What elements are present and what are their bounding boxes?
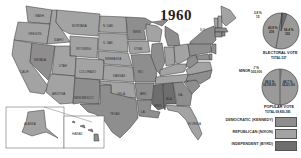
state-label-okla: OKLA. <box>117 92 126 96</box>
state-label-n-dak: N. DAK. <box>103 24 114 28</box>
electoral-rep-votes: 219 <box>269 30 274 34</box>
electoral-vote-title: ELECTORAL VOTE <box>263 51 297 55</box>
state-connecticut <box>215 32 222 37</box>
state-label-minn: MINN. <box>133 30 142 34</box>
state-label-la: LA. <box>141 110 146 114</box>
state-label-nebraska: NEBRASKA <box>105 57 121 61</box>
state-kentucky <box>160 64 188 76</box>
popular-minor-caption: MINOR <box>239 69 250 73</box>
state-label-oregon: OREGON <box>28 32 41 36</box>
state-indiana <box>164 47 175 66</box>
legend-democratic: DEMOCRATIC (KENNEDY) <box>218 117 301 126</box>
legend-label: REPUBLICAN (NIXON) <box>233 130 274 134</box>
state-new-mexico <box>73 78 100 104</box>
legend-label: INDEPENDENT (BYRD) <box>231 142 273 146</box>
state-label-miss: MISS. <box>154 104 162 108</box>
state-new-jersey <box>211 44 216 54</box>
popular-rep-votes: 34,108,000 <box>263 84 276 87</box>
state-colorado <box>75 58 104 80</box>
state-label-ny: N.Y. <box>200 28 205 32</box>
state-massachusetts <box>215 28 228 32</box>
inset-hawaii-frame <box>64 116 104 148</box>
electoral-dem-votes: 303 <box>285 32 290 36</box>
state-rhode-island <box>222 32 225 36</box>
popular-minor-votes: 503,000 <box>251 70 262 74</box>
state-label-colorado: COLORADO <box>79 70 96 74</box>
state-new-hampshire <box>218 16 222 28</box>
state-label-calif: CALIF. <box>20 70 29 74</box>
state-arizona <box>46 74 75 104</box>
state-wisconsin <box>146 24 162 42</box>
state-label-ga: GA. <box>178 93 183 97</box>
state-label-florida: FLORIDA <box>188 122 201 126</box>
state-label-texas: TEXAS <box>110 112 120 116</box>
state-label-utah: UTAH <box>59 64 67 68</box>
state-label-wyoming: WYOMING <box>76 47 91 51</box>
legend-republican: REPUBLICAN (NIXON) <box>218 129 301 138</box>
state-label-arizona: ARIZONA <box>52 92 65 96</box>
legend-swatch-republican <box>275 129 297 139</box>
state-label-kansas: KANSAS <box>113 74 125 78</box>
state-label-mo: MO. <box>138 70 144 74</box>
electoral-vote-total: TOTAL 537 <box>271 56 287 60</box>
legend-independent: INDEPENDENT (BYRD) <box>218 141 301 150</box>
state-label-iowa: IOWA <box>134 47 142 51</box>
popular-vote-title: POPULAR VOTE <box>264 105 294 109</box>
state-label-idaho: IDAHO <box>54 38 64 42</box>
state-label-new-mexico: NEW MEXICO <box>74 96 94 100</box>
state-label-nevada: NEVADA <box>34 58 46 62</box>
legend-swatch-independent <box>275 141 297 151</box>
popular-vote-pie <box>262 69 298 105</box>
state-label-montana: MONTANA <box>72 24 87 28</box>
state-vermont <box>214 18 218 28</box>
state-label-wash: WASH. <box>35 14 45 18</box>
map-title: 1960 <box>160 7 192 24</box>
state-label-ala: ALA. <box>166 97 173 101</box>
popular-dem-votes: 34,221,000 <box>282 84 295 87</box>
state-label-hawaii: HAWAII <box>72 132 82 136</box>
state-maine <box>221 6 236 26</box>
state-maryland <box>196 54 210 60</box>
state-label-ark: ARK. <box>140 92 147 96</box>
popular-vote-total: TOTAL 68,836,385 <box>265 110 291 114</box>
electoral-minor-votes: 15 <box>256 15 259 19</box>
state-label-s-dak: S. DAK. <box>103 41 114 45</box>
state-label-alaska: ALASKA <box>24 122 36 126</box>
legend-label: DEMOCRATIC (KENNEDY) <box>225 118 273 122</box>
legend-swatch-democratic <box>275 117 297 127</box>
